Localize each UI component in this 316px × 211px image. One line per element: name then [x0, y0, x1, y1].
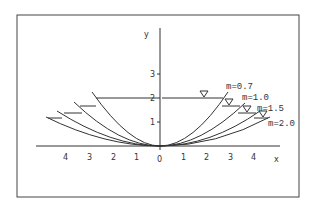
x-tick-neg2: 2 [111, 153, 116, 162]
x-tick-4: 4 [251, 153, 256, 162]
x-tick-neg1: 1 [134, 153, 139, 162]
y-ticks: 1 2 3 y [144, 30, 160, 127]
water-level-icon [225, 99, 233, 105]
water-level-icon [200, 91, 208, 97]
x-tick-0: 0 [157, 155, 162, 164]
label-m07: m=0.7 [226, 82, 253, 92]
x-tick-neg4: 4 [63, 153, 68, 162]
x-tick-2: 2 [204, 153, 209, 162]
x-tick-neg3: 3 [87, 153, 92, 162]
y-tick-1: 1 [150, 118, 155, 127]
x-axis-label: x [274, 155, 279, 164]
x-tick-3: 3 [228, 153, 233, 162]
label-m15: m=1.5 [257, 104, 284, 114]
label-m10: m=1.0 [242, 93, 269, 103]
y-tick-3: 3 [150, 70, 155, 79]
label-m20: m=2.0 [268, 119, 295, 129]
curve-m20 [46, 117, 270, 146]
water-level-icon [243, 106, 251, 112]
x-tick-1: 1 [181, 153, 186, 162]
chart: 1 2 3 y 4 3 2 1 0 1 2 3 4 x [0, 0, 316, 211]
x-ticks: 4 3 2 1 0 1 2 3 4 x [63, 153, 279, 164]
y-axis-label: y [144, 30, 149, 39]
curves [46, 92, 270, 146]
